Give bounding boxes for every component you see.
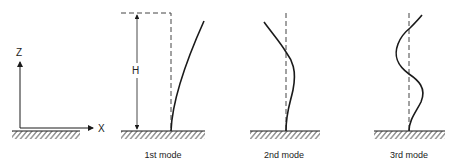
z-axis-label: Z (16, 47, 22, 58)
mode-3: 3rd mode (374, 13, 445, 160)
mode-1: H 1st mode (121, 13, 205, 160)
mode-2-shape-curve (264, 22, 294, 131)
mode-1-label: 1st mode (144, 150, 181, 160)
mode-2-label: 2nd mode (264, 150, 304, 160)
axes-ground-hatch (12, 131, 80, 139)
mode-shapes-diagram: Z X H 1st mode 2nd mode 3rd mode (0, 0, 458, 167)
height-label: H (132, 65, 139, 76)
mode-3-ground-hatch (374, 131, 445, 139)
mode-2-ground-hatch (250, 131, 320, 139)
mode-2: 2nd mode (250, 13, 320, 160)
mode-1-undeformed-axis (121, 13, 171, 131)
mode-3-label: 3rd mode (390, 150, 428, 160)
mode-1-ground-hatch (121, 131, 205, 139)
coordinate-axes: Z X (12, 47, 105, 139)
mode-1-shape-curve (171, 21, 204, 131)
x-axis-label: X (98, 123, 105, 134)
